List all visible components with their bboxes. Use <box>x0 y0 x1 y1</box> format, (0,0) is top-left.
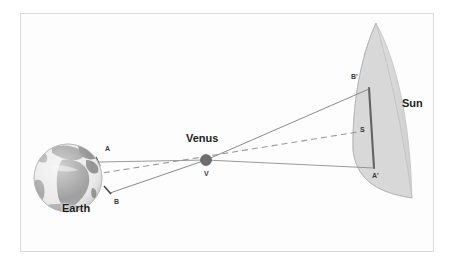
axis-earth-to-sun-dashed <box>84 131 364 176</box>
sightline-a-to-aprime <box>99 160 206 162</box>
venus-body <box>201 155 212 166</box>
venus-label: Venus <box>186 133 218 144</box>
point-label-b-prime: B' <box>351 73 358 80</box>
sightline-v-to-aprime <box>206 160 374 168</box>
earth-label: Earth <box>62 203 90 214</box>
point-label-v: V <box>204 170 209 177</box>
point-label-a-prime: A' <box>372 172 379 179</box>
point-label-a: A <box>105 145 110 152</box>
sun-label: Sun <box>402 98 423 109</box>
sun-body <box>352 23 412 198</box>
point-label-s: S <box>360 126 365 133</box>
observer-tick-b <box>104 186 111 194</box>
figure-root: Earth Venus Sun A B V B' S A' <box>0 0 455 269</box>
sightline-b-to-v <box>110 160 206 193</box>
venus-transit-diagram <box>0 0 455 269</box>
point-label-b: B <box>114 198 119 205</box>
sightline-v-to-bprime <box>206 89 369 160</box>
